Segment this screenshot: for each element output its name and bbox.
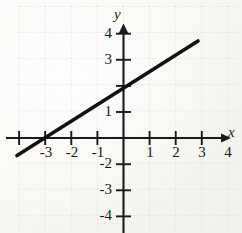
grid-area xyxy=(18,5,242,233)
y-tick-label-1: 1 xyxy=(98,103,112,120)
x-tick-label-3: 3 xyxy=(195,144,209,161)
x-tick-label-1: 1 xyxy=(143,144,157,161)
y-tick-label-neg2: -2 xyxy=(92,155,112,172)
y-axis-label: y xyxy=(114,6,121,23)
y-tick-label-4: 4 xyxy=(98,25,112,42)
y-tick-label-neg3: -3 xyxy=(92,181,112,198)
x-tick-label-2: 2 xyxy=(169,144,183,161)
coordinate-plane xyxy=(0,0,242,233)
x-tick-label-neg3: -3 xyxy=(36,144,56,161)
graph-figure: ) y x -3 -2 -1 1 2 3 4 4 3 1 -2 -3 -4 xyxy=(0,0,242,233)
y-tick-label-3: 3 xyxy=(98,51,112,68)
x-tick-label-4: 4 xyxy=(221,144,235,161)
x-tick-label-neg2: -2 xyxy=(62,144,82,161)
x-axis-label: x xyxy=(228,124,235,141)
y-tick-label-neg4: -4 xyxy=(92,207,112,224)
